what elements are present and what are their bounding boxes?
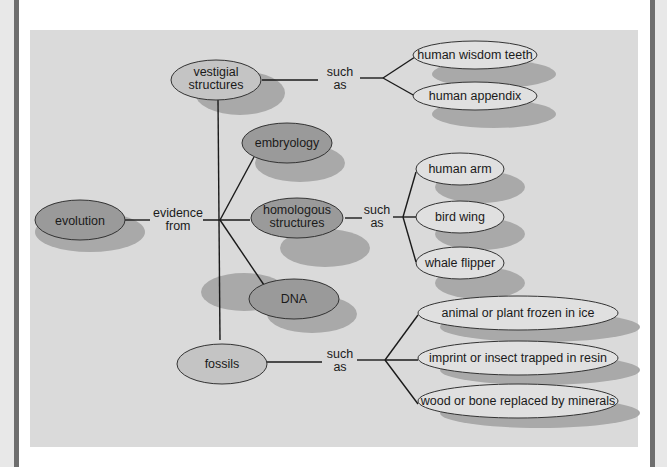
leaf-bird-wing: bird wing: [416, 201, 504, 233]
svg-text:evolution: evolution: [55, 214, 105, 228]
node-dna: DNA: [249, 279, 339, 319]
leaf-trapped-in-resin: imprint or insect trapped in resin: [418, 341, 618, 375]
svg-text:as: as: [333, 78, 346, 92]
leaf-human-appendix: human appendix: [413, 82, 537, 110]
node-vestigial-structures: vestigial structures: [171, 60, 261, 100]
leaf-human-arm: human arm: [416, 153, 504, 185]
link-such-as-fossils: such as: [327, 347, 353, 374]
svg-text:DNA: DNA: [281, 292, 308, 306]
svg-text:as: as: [333, 360, 346, 374]
svg-text:structures: structures: [270, 216, 325, 230]
node-fossils: fossils: [177, 344, 267, 384]
svg-text:evidence: evidence: [153, 206, 203, 220]
svg-text:vestigial: vestigial: [193, 65, 238, 79]
svg-text:embryology: embryology: [255, 136, 320, 150]
svg-text:whale flipper: whale flipper: [424, 256, 495, 270]
svg-text:wood or bone replaced by miner: wood or bone replaced by minerals: [420, 394, 616, 408]
svg-text:imprint or insect trapped in r: imprint or insect trapped in resin: [429, 351, 607, 365]
svg-text:such: such: [327, 347, 353, 361]
link-such-as-vestigial: such as: [327, 65, 353, 92]
node-homologous-structures: homologous structures: [251, 198, 343, 238]
link-evidence-from: evidence from: [153, 206, 203, 233]
link-such-as-homologous: such as: [364, 203, 390, 230]
leaf-whale-flipper: whale flipper: [416, 247, 504, 279]
leaf-human-wisdom-teeth: human wisdom teeth: [413, 41, 537, 69]
svg-text:such: such: [364, 203, 390, 217]
concept-map: evolution evidence from vestigial struct…: [0, 0, 667, 467]
svg-text:human arm: human arm: [428, 162, 491, 176]
leaf-frozen-in-ice: animal or plant frozen in ice: [418, 296, 618, 330]
node-embryology: embryology: [242, 123, 332, 163]
node-evolution: evolution: [35, 200, 125, 240]
svg-text:animal or plant frozen in ice: animal or plant frozen in ice: [442, 306, 595, 320]
svg-text:human wisdom teeth: human wisdom teeth: [417, 48, 532, 62]
svg-text:bird wing: bird wing: [435, 210, 485, 224]
svg-text:homologous: homologous: [263, 203, 331, 217]
svg-text:from: from: [166, 219, 191, 233]
leaf-replaced-by-minerals: wood or bone replaced by minerals: [418, 384, 618, 418]
svg-text:fossils: fossils: [205, 357, 240, 371]
svg-text:structures: structures: [189, 78, 244, 92]
svg-text:as: as: [370, 216, 383, 230]
svg-text:human appendix: human appendix: [429, 89, 522, 103]
svg-text:such: such: [327, 65, 353, 79]
